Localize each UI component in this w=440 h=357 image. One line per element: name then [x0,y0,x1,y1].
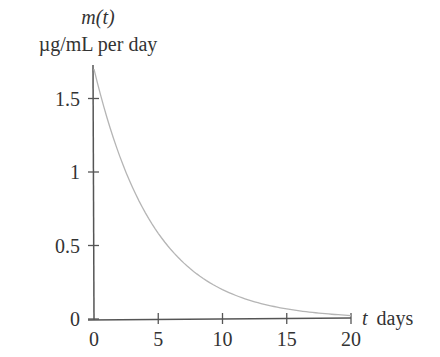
x-tick-label: 20 [341,328,361,350]
y-tick-label: 0.5 [55,235,80,257]
y-tick-label: 0 [70,308,80,330]
x-axis [88,318,351,320]
y-tick-label: 1.5 [55,88,80,110]
y-tick-label: 1 [70,161,80,183]
decay-chart: m(t) µg/mL per day 00.511.5 05101520 t d… [0,0,440,357]
y-axis [93,65,94,320]
y-axis-label-function: m(t) [81,6,115,29]
x-tick-label: 15 [277,328,297,350]
x-tick-label: 10 [213,328,233,350]
x-tick-label: 5 [153,328,163,350]
y-axis-label-unit: µg/mL per day [39,33,158,56]
x-tick-label: 0 [89,328,99,350]
decay-curve [94,69,351,315]
y-ticks: 00.511.5 [55,88,99,331]
x-axis-label: t days [362,307,413,330]
